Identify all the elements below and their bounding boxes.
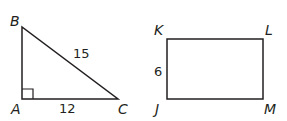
side-label-kj: 6: [154, 64, 162, 79]
vertex-label-b: B: [10, 13, 20, 29]
vertex-label-c: C: [118, 101, 128, 117]
side-label-ac: 12: [59, 101, 76, 116]
vertex-label-m: M: [264, 101, 276, 117]
right-triangle-abc: B A C 15 12: [10, 13, 128, 117]
right-angle-marker-icon: [22, 89, 33, 99]
geometry-diagram: B A C 15 12 K L J M 6: [0, 0, 287, 121]
rectangle-jklm: K L J M 6: [152, 22, 276, 117]
side-label-bc: 15: [73, 46, 90, 61]
vertex-label-a: A: [10, 101, 21, 117]
triangle-shape: [22, 27, 118, 99]
vertex-label-j: J: [152, 101, 159, 117]
vertex-label-l: L: [265, 22, 273, 38]
vertex-label-k: K: [154, 22, 165, 38]
rectangle-shape: [167, 39, 263, 99]
